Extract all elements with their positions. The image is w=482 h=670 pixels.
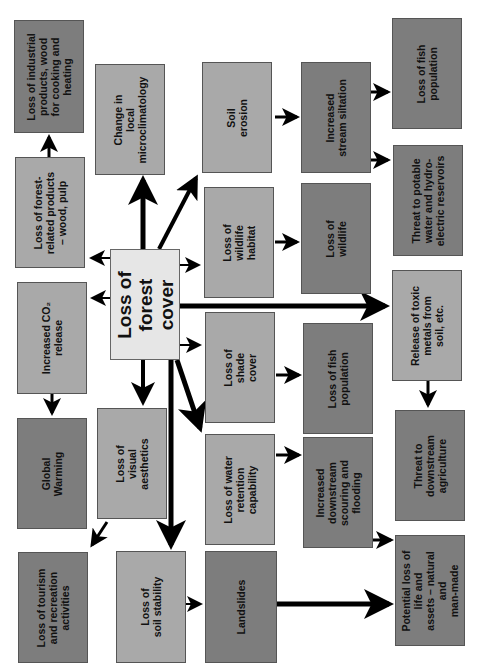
center-label: Loss of forest cover — [114, 271, 177, 339]
box-soil-erosion: Soil erosion — [202, 62, 272, 173]
box-fish-population-mid: Loss of fish population — [303, 323, 373, 434]
box-shade-cover: Loss of shade cover — [205, 312, 275, 423]
forest-loss-diagram: Loss of industrial products, wood for co… — [0, 0, 482, 670]
box-scouring-flooding: Increased downstream scouring and floodi… — [303, 437, 373, 548]
arrow-center-to-water-retention — [177, 360, 200, 428]
box-toxic-metals: Release of toxic metals from soil, etc. — [392, 270, 462, 381]
box-label: Potential loss of life and assets – natu… — [400, 550, 460, 631]
box-co2-release: Increased CO₂ release — [17, 282, 87, 394]
box-wildlife: Loss of wildlife — [301, 183, 371, 294]
box-label: Loss of fish population — [415, 44, 439, 103]
box-label: Loss of visual aesthetics — [114, 438, 150, 489]
box-soil-stability: Loss of soil stability — [116, 551, 186, 663]
box-label: Loss of fish population — [326, 349, 350, 408]
box-label: Soil erosion — [225, 99, 249, 137]
box-wildlife-habitat: Loss of wildlife habitat — [204, 187, 274, 298]
arrow-visual-to-tourism — [92, 522, 107, 545]
box-label: Increased downstream scouring and floodi… — [314, 460, 362, 526]
box-landslides: Landslides — [205, 551, 277, 663]
box-life-assets: Potential loss of life and assets – natu… — [395, 535, 465, 646]
box-loss-of-forest-cover: Loss of forest cover — [110, 249, 180, 360]
box-label: Loss of shade cover — [222, 349, 258, 386]
box-fish-population-top: Loss of fish population — [392, 18, 462, 129]
box-label: Threat to potable water and hydro- elect… — [410, 155, 446, 245]
box-forest-products: Loss of forest- related products – wood,… — [15, 157, 85, 268]
box-label: Loss of wildlife habitat — [221, 224, 257, 261]
box-label: Global Warming — [40, 451, 64, 496]
box-label: Increased CO₂ release — [40, 302, 64, 374]
box-label: Landslides — [235, 580, 247, 635]
box-tourism-recreation: Loss of tourism and recreation activitie… — [18, 552, 88, 663]
box-label: Loss of soil stability — [139, 577, 163, 638]
box-label: Loss of water retention capability — [222, 456, 258, 524]
box-label: Loss of industrial products, wood for co… — [25, 33, 73, 121]
box-label: Threat to downstream agriculture — [412, 435, 448, 497]
box-global-warming: Global Warming — [17, 418, 87, 529]
box-microclimate: Change in local microclimatology — [95, 64, 165, 175]
box-label: Loss of tourism and recreation activitie… — [35, 568, 71, 647]
box-label: Release of toxic metals from soil, etc. — [409, 286, 445, 366]
box-downstream-agriculture: Threat to downstream agriculture — [395, 410, 465, 521]
box-industrial-products: Loss of industrial products, wood for co… — [14, 20, 84, 133]
box-label: Change in local microclimatology — [112, 76, 148, 163]
box-potable-water: Threat to potable water and hydro- elect… — [393, 145, 463, 256]
box-stream-siltation: Increased stream siltation — [301, 62, 371, 173]
box-label: Increased stream siltation — [324, 79, 348, 157]
arrow-center-to-soil-erosion — [159, 178, 196, 249]
box-label: Loss of forest- related products – wood,… — [32, 171, 68, 253]
box-label: Loss of wildlife — [324, 220, 348, 257]
box-water-retention: Loss of water retention capability — [205, 434, 275, 545]
box-visual-aesthetics: Loss of visual aesthetics — [97, 408, 167, 519]
